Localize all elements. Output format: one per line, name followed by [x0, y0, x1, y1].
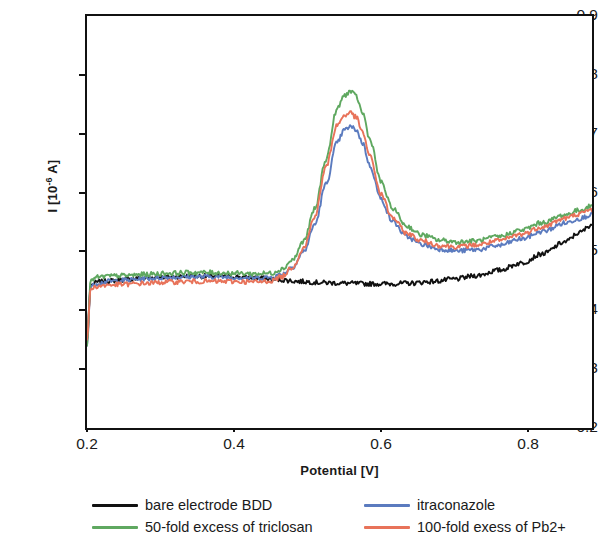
- legend-swatch: [364, 526, 410, 529]
- x-axis-title: Potential [V]: [85, 463, 594, 478]
- legend-label: 50-fold excess of triclosan: [145, 520, 313, 535]
- legend-swatch: [92, 526, 138, 529]
- x-tick-label: 0.4: [204, 436, 264, 452]
- curve-3: [87, 91, 592, 346]
- legend-item: bare electrode BDD: [92, 498, 364, 513]
- y-axis-title: I [10-6 A]: [44, 126, 60, 246]
- legend-item: itraconazole: [364, 498, 598, 513]
- legend-label: 100-fold exess of Pb2+: [417, 520, 566, 535]
- voltammogram-figure: I [10-6 A] 0.20.30.40.50.60.70.80.9 0.20…: [0, 0, 598, 543]
- legend-item: 50-fold excess of triclosan: [92, 520, 364, 535]
- x-tick-label: 0.8: [498, 436, 558, 452]
- y-axis-title-prefix: I [10: [45, 186, 60, 213]
- legend-label: bare electrode BDD: [145, 498, 272, 513]
- x-tick-label: 0.6: [351, 436, 411, 452]
- curves-canvas: [87, 16, 592, 428]
- legend-swatch: [364, 504, 410, 507]
- curve-4: [87, 111, 592, 340]
- y-axis-title-suffix: A]: [45, 160, 60, 177]
- legend-swatch: [92, 504, 138, 507]
- legend-label: itraconazole: [417, 498, 495, 513]
- y-axis-title-exponent: -6: [44, 177, 54, 185]
- legend-item: 100-fold exess of Pb2+: [364, 520, 598, 535]
- plot-area: [85, 14, 594, 430]
- x-tick-label: 0.2: [57, 436, 117, 452]
- legend: bare electrode BDDitraconazole50-fold ex…: [92, 494, 598, 538]
